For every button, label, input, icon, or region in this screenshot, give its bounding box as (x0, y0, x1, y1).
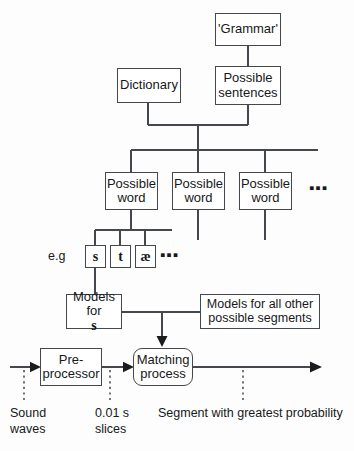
node-models-for-s[interactable]: Models for s (66, 294, 122, 329)
arrowhead-output (310, 362, 322, 373)
label-segment-probability: Segment with greatest probability (158, 406, 343, 420)
node-other-models-line2: possible segments (208, 312, 312, 326)
node-grammar-label: 'Grammar' (218, 22, 278, 36)
node-preprocessor-line2: processor (42, 367, 99, 381)
node-models-for-s-symbol: s (86, 318, 101, 333)
node-phoneme-t[interactable]: t (110, 245, 131, 268)
ellipsis-possible-words: ▪▪▪ (309, 179, 328, 196)
node-possible-word-2-line2: word (184, 191, 212, 205)
node-models-for-s-prefix: for (86, 304, 101, 318)
node-possible-sentences-line1: Possible (223, 71, 272, 85)
node-possible-word-3[interactable]: Possible word (239, 172, 292, 210)
label-eg: e.g (48, 249, 65, 263)
label-slices-line2: slices (95, 422, 129, 438)
label-slices-line1: 0.01 s (95, 406, 129, 422)
node-possible-word-1[interactable]: Possible word (105, 172, 158, 210)
label-sound-waves-line1: Sound (10, 406, 46, 422)
node-grammar[interactable]: 'Grammar' (215, 13, 281, 46)
node-possible-sentences[interactable]: Possible sentences (215, 66, 281, 105)
node-other-models[interactable]: Models for all other possible segments (200, 294, 320, 329)
node-possible-word-2[interactable]: Possible word (172, 172, 225, 210)
node-phoneme-ae[interactable]: æ (135, 245, 156, 268)
node-possible-word-1-line1: Possible (107, 177, 156, 191)
node-phoneme-t-label: t (118, 249, 123, 264)
node-models-for-s-line2: for s (86, 304, 101, 333)
node-phoneme-s-label: s (93, 249, 98, 264)
arrowhead-into-matching (157, 336, 168, 347)
node-matching-process[interactable]: Matching process (133, 348, 193, 386)
node-possible-word-1-line2: word (117, 191, 145, 205)
node-matching-process-line1: Matching (137, 353, 190, 367)
node-phoneme-ae-label: æ (140, 249, 150, 264)
node-dictionary-label: Dictionary (120, 78, 178, 92)
label-sound-waves-line2: waves (10, 422, 46, 438)
node-dictionary[interactable]: Dictionary (117, 68, 181, 103)
node-possible-word-3-line1: Possible (241, 177, 290, 191)
node-models-for-s-line1: Models (73, 290, 115, 304)
node-other-models-line1: Models for all other (207, 298, 313, 312)
node-possible-word-3-line2: word (251, 191, 279, 205)
label-sound-waves: Sound waves (10, 406, 46, 437)
node-preprocessor[interactable]: Pre- processor (40, 348, 102, 386)
node-possible-word-2-line1: Possible (174, 177, 223, 191)
label-slices: 0.01 s slices (95, 406, 129, 437)
ellipsis-phonemes: ▪▪▪ (160, 246, 179, 263)
node-matching-process-line2: process (140, 367, 186, 381)
node-preprocessor-line1: Pre- (59, 353, 84, 367)
node-possible-sentences-line2: sentences (218, 86, 277, 100)
node-phoneme-s[interactable]: s (85, 245, 106, 268)
speech-recognition-diagram: 'Grammar' Dictionary Possible sentences … (0, 0, 354, 451)
